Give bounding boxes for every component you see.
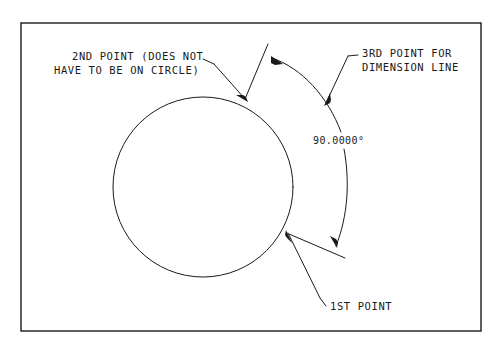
label-first-point: 1ST POINT xyxy=(330,300,392,312)
arrowhead-dimension-arc-top xyxy=(271,56,283,65)
drawing-canvas: 2ND POINT (DOES NOT HAVE TO BE ON CIRCLE… xyxy=(0,0,501,351)
leader-line-second-point xyxy=(214,64,246,100)
cad-drawing-svg: 2ND POINT (DOES NOT HAVE TO BE ON CIRCLE… xyxy=(0,0,501,351)
arrowhead-first-point xyxy=(285,230,292,243)
arrowhead-third-point xyxy=(324,93,331,106)
label-third-point-line2: DIMENSION LINE xyxy=(362,61,459,73)
extension-line-second-point xyxy=(245,44,268,99)
circle-entity xyxy=(113,97,293,277)
dimension-arc-upper xyxy=(272,58,341,132)
leader-stub-first-point xyxy=(320,298,326,306)
leader-stub-second-point xyxy=(203,59,214,64)
dimension-arc-lower xyxy=(336,149,347,246)
dimension-value-text: 90.0000° xyxy=(313,135,364,146)
arrowhead-dimension-arc-bottom xyxy=(330,236,338,248)
leader-line-first-point xyxy=(288,233,320,298)
label-second-point-line1: 2ND POINT (DOES NOT xyxy=(72,50,204,62)
label-second-point-line2: HAVE TO BE ON CIRCLE) xyxy=(54,64,199,76)
label-third-point-line1: 3RD POINT FOR xyxy=(362,47,452,59)
leader-stub-third-point xyxy=(348,55,358,56)
